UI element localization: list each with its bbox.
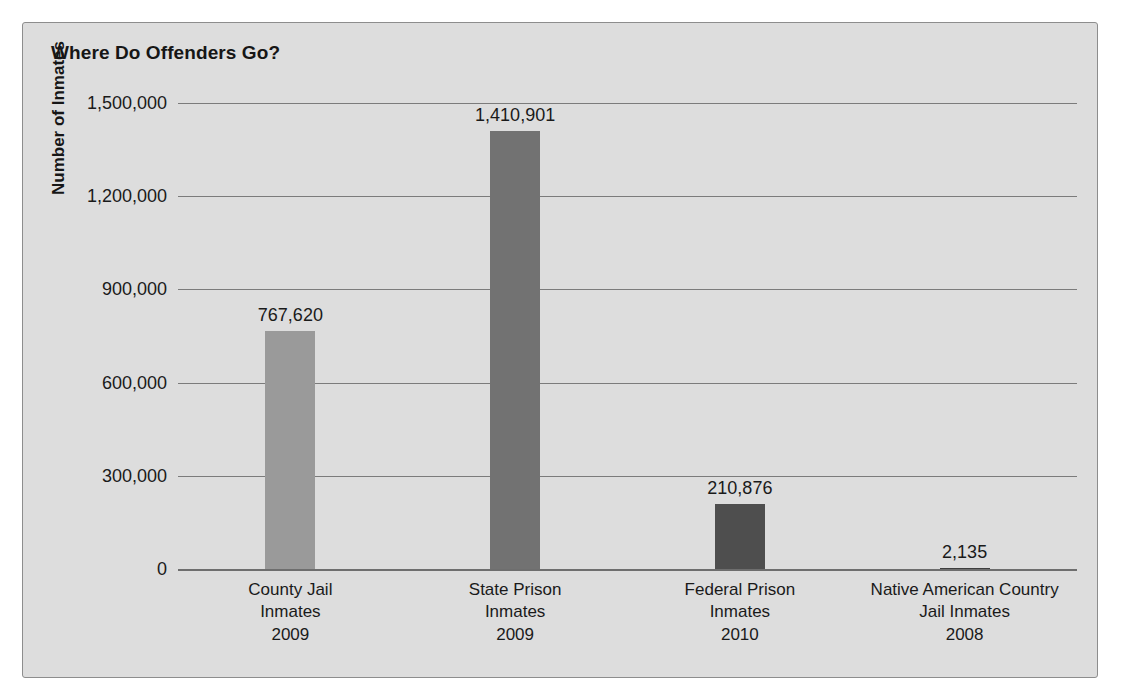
y-tick-label: 0 [157, 559, 167, 580]
bar-federal-prison-inmates: 210,876 [715, 504, 765, 570]
category-label-line: Native American Country [835, 579, 1095, 601]
gridline [178, 103, 1077, 104]
y-tick-label: 600,000 [102, 372, 167, 393]
y-tick-label: 1,500,000 [87, 93, 167, 114]
gridline [178, 196, 1077, 197]
category-label-line: Inmates [160, 601, 420, 623]
category-label-line: Inmates [385, 601, 645, 623]
category-label-line: County Jail [160, 579, 420, 601]
bar-value-label: 1,410,901 [475, 105, 555, 126]
bar-county-jail-inmates: 767,620 [265, 331, 315, 569]
category-label-native-american-country-jail-inmates: Native American CountryJail Inmates2008 [835, 579, 1095, 646]
category-label-line: 2009 [385, 624, 645, 646]
bar-value-label: 210,876 [707, 478, 772, 499]
bar-value-label: 2,135 [942, 542, 987, 563]
category-label-line: State Prison [385, 579, 645, 601]
category-label-federal-prison-inmates: Federal PrisonInmates2010 [610, 579, 870, 646]
plot-area: 0300,000600,000900,0001,200,0001,500,000… [178, 103, 1077, 569]
category-label-line: Inmates [610, 601, 870, 623]
category-label-line: 2008 [835, 624, 1095, 646]
chart-figure: Where Do Offenders Go? Number of Inmates… [22, 22, 1098, 678]
chart-title: Where Do Offenders Go? [51, 42, 280, 64]
category-label-county-jail-inmates: County JailInmates2009 [160, 579, 420, 646]
y-tick-label: 1,200,000 [87, 186, 167, 207]
bar-native-american-country-jail-inmates: 2,135 [940, 568, 990, 569]
y-axis-title: Number of Inmates [49, 3, 69, 233]
y-tick-label: 900,000 [102, 279, 167, 300]
gridline [178, 289, 1077, 290]
category-label-line: 2010 [610, 624, 870, 646]
category-label-line: 2009 [160, 624, 420, 646]
category-label-state-prison-inmates: State PrisonInmates2009 [385, 579, 645, 646]
y-tick-label: 300,000 [102, 465, 167, 486]
category-label-line: Jail Inmates [835, 601, 1095, 623]
bar-value-label: 767,620 [258, 305, 323, 326]
bar-state-prison-inmates: 1,410,901 [490, 131, 540, 569]
category-label-line: Federal Prison [610, 579, 870, 601]
axis-baseline [178, 569, 1077, 571]
